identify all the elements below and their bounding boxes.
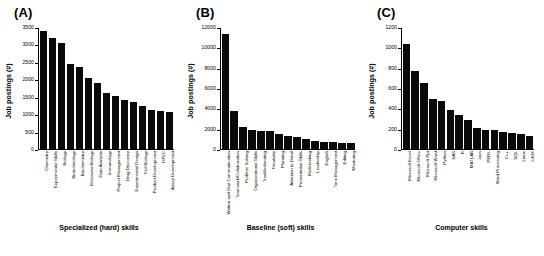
y-tick-label: 2500: [22, 60, 34, 65]
x-tick: HPLC: [156, 151, 165, 211]
x-tick: MATLAB: [464, 151, 473, 211]
bar: [230, 111, 238, 149]
panel-a-plot-area: 0500100015002000250030003500: [38, 28, 174, 150]
bar: [157, 111, 165, 149]
x-tick: C++: [499, 151, 508, 211]
x-tick: Creativity: [266, 151, 275, 211]
panel-b-letter: (B): [196, 5, 215, 20]
x-tick: Teamwork/Collaboration: [230, 151, 239, 211]
panel-b: (B) Job postings (#) 0200040006000800010…: [182, 0, 363, 256]
bar: [266, 131, 274, 149]
bar: [403, 44, 411, 149]
x-tick-label: Assay Development: [171, 151, 176, 190]
x-tick: Experimental Design: [129, 151, 138, 211]
y-tick-label: 600: [388, 86, 397, 91]
bar: [67, 64, 75, 149]
bar: [338, 143, 346, 149]
x-tick: Mentoring: [346, 151, 355, 211]
y-tick-label: 800: [388, 66, 397, 71]
bar: [103, 93, 111, 149]
y-tick-label: 3000: [22, 43, 34, 48]
x-tick: Attention to Detail: [284, 151, 293, 211]
x-tick: SAS: [446, 151, 455, 211]
x-tick: Presentation Skills: [293, 151, 302, 211]
y-tick-label: 8000: [204, 66, 216, 71]
panel-c-x-axis-title: Computer skills: [383, 224, 540, 231]
panel-a-y-axis-title: Job postings (#): [4, 0, 16, 36]
bar: [94, 83, 102, 149]
x-tick-label: UNIX: [531, 151, 536, 162]
bar: [482, 130, 490, 149]
bar: [239, 127, 247, 149]
x-tick: Java: [472, 151, 481, 211]
y-tick-mark: [217, 150, 220, 151]
y-tick-label: 3500: [22, 25, 34, 30]
x-tick: Troubleshooting: [257, 151, 266, 211]
x-tick: Product Development: [147, 151, 156, 211]
y-tick-label: 0: [213, 147, 216, 152]
y-tick-mark: [35, 28, 38, 29]
x-tick: Microsoft Ppt: [420, 151, 429, 211]
y-tick-label: 200: [388, 127, 397, 132]
y-tick-label: 1000: [22, 113, 34, 118]
bar: [166, 112, 174, 149]
x-tick: Cell Biology: [138, 151, 147, 211]
x-tick: Biology: [57, 151, 66, 211]
bar: [411, 71, 419, 149]
bar: [76, 67, 84, 149]
bar: [148, 110, 156, 149]
x-tick: Data Analysis: [93, 151, 102, 211]
y-tick-mark: [217, 109, 220, 110]
bar: [517, 134, 525, 149]
x-tick: Python: [437, 151, 446, 211]
y-tick-label: 400: [388, 107, 397, 112]
bar: [284, 136, 292, 149]
bar: [320, 142, 328, 149]
x-tick: Microsoft Office: [411, 151, 420, 211]
panel-a-x-axis-title: Specialized (hard) skills: [20, 224, 178, 231]
x-tick: Editing: [337, 151, 346, 211]
y-tick-mark: [217, 89, 220, 90]
x-tick: Experimental Skills: [48, 151, 57, 211]
y-tick-mark: [398, 109, 401, 110]
y-tick-mark: [35, 45, 38, 46]
x-tick: Planning: [275, 151, 284, 211]
bar: [429, 99, 437, 149]
y-tick-label: 1000: [385, 46, 397, 51]
bar: [464, 120, 472, 149]
y-tick-mark: [217, 130, 220, 131]
panel-a-letter: (A): [14, 5, 33, 20]
panel-c-y-axis-title: Job postings (#): [367, 0, 379, 36]
panel-c-plot-area: 020040060080010001200: [401, 28, 534, 150]
x-tick: Multi-tasking: [301, 151, 310, 211]
panel-b-y-axis-title-text: Job postings (#): [186, 36, 195, 146]
bar: [347, 143, 355, 149]
bar: [526, 136, 534, 149]
panel-a-bars: [39, 28, 174, 149]
y-tick-mark: [398, 150, 401, 151]
panel-c-letter: (C): [377, 5, 396, 20]
y-tick-mark: [398, 130, 401, 131]
y-tick-mark: [217, 28, 220, 29]
bar: [438, 101, 446, 149]
x-tick: PERL: [481, 151, 490, 211]
y-tick-mark: [398, 48, 401, 49]
bar: [420, 83, 428, 149]
bar: [293, 137, 301, 149]
x-tick: Written and Oral Communication: [221, 151, 230, 211]
y-tick-mark: [35, 98, 38, 99]
x-tick: Linux: [516, 151, 525, 211]
panel-c-bars: [402, 28, 534, 149]
bar: [275, 134, 283, 149]
bar: [508, 133, 516, 149]
y-tick-label: 2000: [22, 78, 34, 83]
x-tick: Biotechnology: [66, 151, 75, 211]
bar: [130, 102, 138, 149]
x-tick: Biochemistry: [75, 151, 84, 211]
x-tick-label: Mentoring: [352, 151, 357, 171]
x-tick: Project Management: [111, 151, 120, 211]
panel-a-x-axis-line: [38, 149, 174, 150]
bar: [40, 31, 48, 149]
panel-c-x-tick-labels: Microsoft ExcelMicrosoft OfficeMicrosoft…: [402, 151, 534, 211]
x-tick: Assay Development: [165, 151, 174, 211]
